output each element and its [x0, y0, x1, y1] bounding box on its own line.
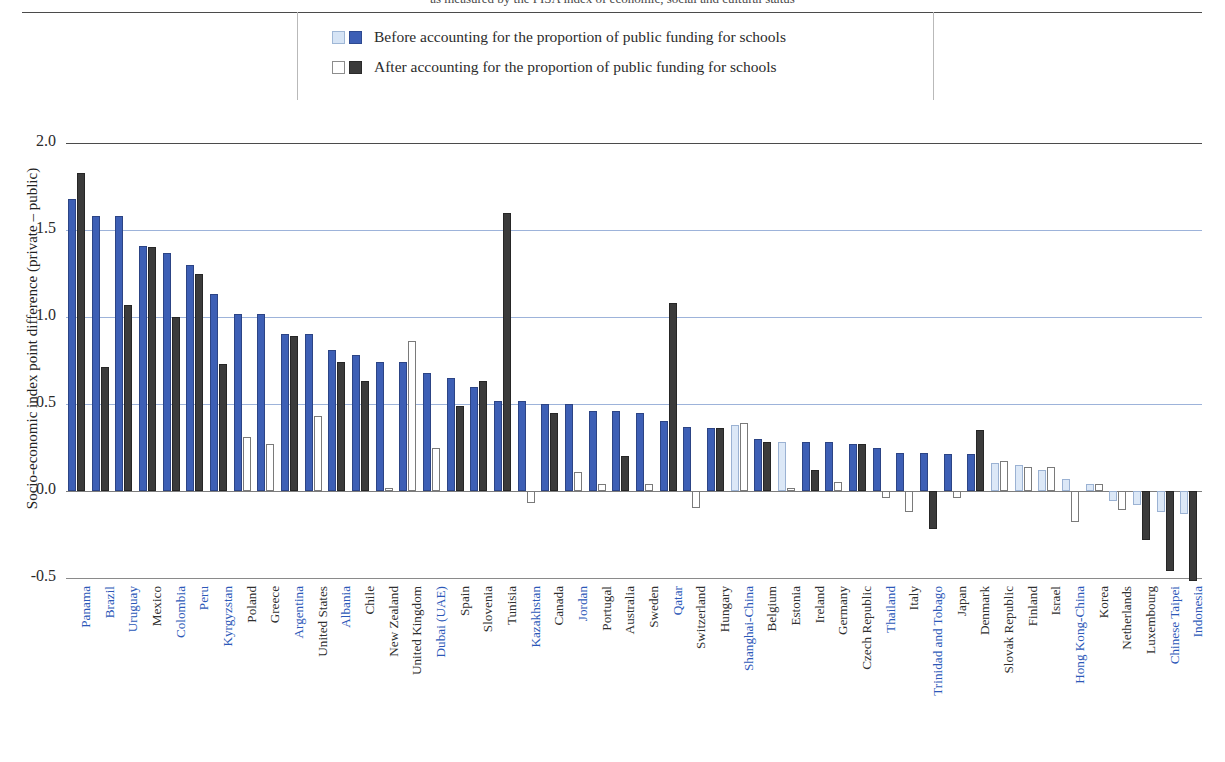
- bar-group[interactable]: [1038, 143, 1059, 578]
- bar-after[interactable]: [976, 430, 984, 491]
- bar-before[interactable]: [68, 199, 76, 491]
- bar-after[interactable]: [787, 488, 795, 491]
- bar-group[interactable]: [849, 143, 870, 578]
- bar-group[interactable]: [754, 143, 775, 578]
- bar-group[interactable]: [944, 143, 965, 578]
- bar-after[interactable]: [314, 416, 322, 491]
- bar-after[interactable]: [1071, 491, 1079, 522]
- bar-before[interactable]: [447, 378, 455, 491]
- bar-before[interactable]: [1062, 479, 1070, 491]
- bar-after[interactable]: [243, 437, 251, 491]
- bar-after[interactable]: [834, 482, 842, 491]
- bar-after[interactable]: [219, 364, 227, 491]
- bar-after[interactable]: [645, 484, 653, 491]
- bar-before[interactable]: [92, 216, 100, 491]
- bar-group[interactable]: [565, 143, 586, 578]
- bar-group[interactable]: [778, 143, 799, 578]
- bar-before[interactable]: [470, 387, 478, 491]
- bar-before[interactable]: [707, 428, 715, 491]
- bar-group[interactable]: [991, 143, 1012, 578]
- bar-before[interactable]: [660, 421, 668, 491]
- bar-after[interactable]: [337, 362, 345, 491]
- bar-after[interactable]: [716, 428, 724, 491]
- bar-before[interactable]: [967, 454, 975, 491]
- bar-before[interactable]: [1015, 465, 1023, 491]
- bar-group[interactable]: [210, 143, 231, 578]
- bar-group[interactable]: [234, 143, 255, 578]
- bar-before[interactable]: [163, 253, 171, 491]
- bar-group[interactable]: [731, 143, 752, 578]
- bar-group[interactable]: [186, 143, 207, 578]
- bar-after[interactable]: [101, 367, 109, 491]
- bar-after[interactable]: [456, 406, 464, 491]
- bar-before[interactable]: [139, 246, 147, 491]
- bar-after[interactable]: [669, 303, 677, 491]
- bar-before[interactable]: [1038, 470, 1046, 491]
- bar-before[interactable]: [778, 442, 786, 491]
- bar-before[interactable]: [896, 453, 904, 491]
- bar-group[interactable]: [92, 143, 113, 578]
- bar-group[interactable]: [920, 143, 941, 578]
- bar-group[interactable]: [423, 143, 444, 578]
- bar-before[interactable]: [1180, 491, 1188, 514]
- bar-group[interactable]: [1086, 143, 1107, 578]
- bar-group[interactable]: [281, 143, 302, 578]
- bar-before[interactable]: [423, 373, 431, 491]
- bar-after[interactable]: [408, 341, 416, 491]
- bar-after[interactable]: [1189, 491, 1197, 581]
- bar-group[interactable]: [376, 143, 397, 578]
- bar-after[interactable]: [858, 444, 866, 491]
- bar-group[interactable]: [1109, 143, 1130, 578]
- bar-after[interactable]: [361, 381, 369, 491]
- bar-after[interactable]: [740, 423, 748, 491]
- bar-group[interactable]: [115, 143, 136, 578]
- bar-after[interactable]: [1142, 491, 1150, 540]
- bar-after[interactable]: [929, 491, 937, 529]
- bar-before[interactable]: [115, 216, 123, 491]
- bar-group[interactable]: [305, 143, 326, 578]
- bar-after[interactable]: [621, 456, 629, 491]
- bar-before[interactable]: [399, 362, 407, 491]
- bar-before[interactable]: [802, 442, 810, 491]
- bar-group[interactable]: [589, 143, 610, 578]
- bar-before[interactable]: [541, 404, 549, 491]
- bar-before[interactable]: [873, 448, 881, 492]
- bar-before[interactable]: [849, 444, 857, 491]
- bar-before[interactable]: [305, 334, 313, 491]
- bar-before[interactable]: [565, 404, 573, 491]
- bar-after[interactable]: [266, 444, 274, 491]
- bar-group[interactable]: [802, 143, 823, 578]
- bar-after[interactable]: [503, 213, 511, 491]
- bar-after[interactable]: [195, 274, 203, 492]
- bar-group[interactable]: [328, 143, 349, 578]
- bar-group[interactable]: [896, 143, 917, 578]
- bar-before[interactable]: [1086, 484, 1094, 491]
- bar-after[interactable]: [1095, 484, 1103, 491]
- bar-group[interactable]: [68, 143, 89, 578]
- bar-group[interactable]: [873, 143, 894, 578]
- bar-after[interactable]: [692, 491, 700, 508]
- bar-group[interactable]: [707, 143, 728, 578]
- bar-after[interactable]: [598, 484, 606, 491]
- bar-before[interactable]: [1109, 491, 1117, 501]
- bar-before[interactable]: [920, 453, 928, 491]
- bar-group[interactable]: [1157, 143, 1178, 578]
- bar-before[interactable]: [1133, 491, 1141, 505]
- bar-group[interactable]: [399, 143, 420, 578]
- bar-before[interactable]: [518, 401, 526, 491]
- bar-before[interactable]: [731, 425, 739, 491]
- bar-after[interactable]: [385, 488, 393, 491]
- bar-after[interactable]: [550, 413, 558, 491]
- bar-after[interactable]: [77, 173, 85, 491]
- bar-after[interactable]: [148, 247, 156, 491]
- bar-after[interactable]: [1024, 467, 1032, 491]
- bar-group[interactable]: [636, 143, 657, 578]
- bar-before[interactable]: [257, 314, 265, 491]
- bar-after[interactable]: [953, 491, 961, 498]
- bar-after[interactable]: [124, 305, 132, 491]
- bar-after[interactable]: [763, 442, 771, 491]
- bar-group[interactable]: [1180, 143, 1201, 578]
- bar-before[interactable]: [1157, 491, 1165, 512]
- bar-after[interactable]: [1166, 491, 1174, 571]
- bar-after[interactable]: [432, 448, 440, 492]
